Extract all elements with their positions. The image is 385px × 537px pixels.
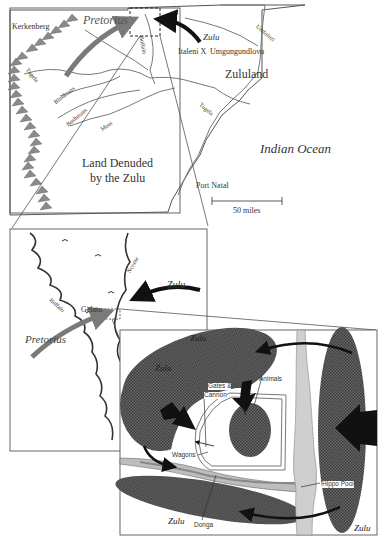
label-zulu-west: Zulu	[155, 364, 172, 373]
label-hippo-pool: Hippo Pool	[322, 481, 354, 488]
label-indian-ocean: Indian Ocean	[260, 142, 331, 155]
label-wagons: Wagons	[172, 452, 196, 459]
label-zulu-east: Zulu	[354, 524, 371, 533]
label-donga: Donga	[194, 522, 213, 529]
scale-bar	[212, 197, 282, 205]
label-zulu-north: Zulu	[190, 334, 207, 343]
label-kerkenberg: Kerkenberg	[12, 23, 50, 31]
label-gates: Gates &	[208, 383, 231, 390]
overview-map	[8, 5, 305, 228]
battle-diagram	[112, 311, 377, 535]
scale-label: 50 miles	[233, 207, 260, 215]
label-zulu-south: Zulu	[168, 517, 185, 526]
animals-enclosure	[229, 403, 271, 457]
label-cannon: Cannon	[204, 392, 227, 399]
label-zulu-detail: Zulu	[167, 280, 185, 290]
label-land-denuded-2: by the Zulu	[90, 172, 145, 184]
label-italeni: Italeni X	[178, 48, 206, 56]
label-zulu: Zulu	[203, 33, 220, 42]
label-pretorius-detail: Pretorius	[25, 334, 66, 345]
label-land-denuded-1: Land Denuded	[82, 157, 153, 169]
label-port-natal: Port Natal	[196, 182, 229, 190]
label-gelato: Gelato	[81, 306, 102, 314]
label-animals: Animals	[259, 376, 282, 383]
label-zululand: Zululand	[225, 68, 268, 80]
label-umgungundlovu: Umgungundlovu	[210, 48, 264, 56]
label-pretorius: Pretorius	[83, 14, 128, 26]
